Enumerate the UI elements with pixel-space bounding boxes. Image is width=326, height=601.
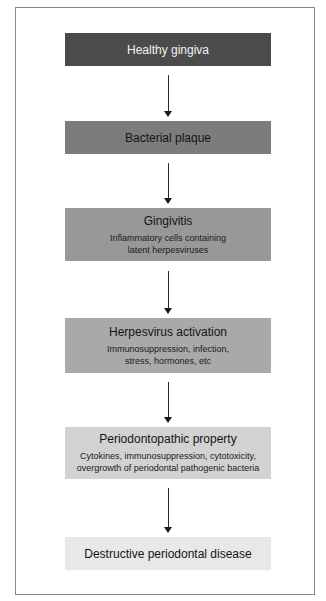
arrow-down-icon: [164, 163, 173, 204]
arrow-down-icon: [164, 75, 173, 117]
node-description: Immunosuppression, infection, stress, ho…: [107, 343, 229, 367]
arrow-down-icon: [164, 488, 173, 533]
node-description-line: stress, hormones, etc: [107, 355, 229, 367]
node-title: Destructive periodontal disease: [84, 547, 251, 561]
node-destructive-periodontal-disease: Destructive periodontal disease: [65, 537, 271, 570]
node-gingivitis: Gingivitis Inflammatory cells containing…: [65, 208, 271, 261]
node-description-line: overgrowth of periodontal pathogenic bac…: [77, 462, 260, 474]
node-title: Herpesvirus activation: [109, 325, 227, 339]
node-description-line: latent herpesviruses: [110, 244, 226, 256]
arrow-down-icon: [164, 271, 173, 314]
node-healthy-gingiva: Healthy gingiva: [65, 33, 271, 66]
node-description: Cytokines, immunosuppression, cytotoxici…: [77, 450, 260, 474]
node-description-line: Immunosuppression, infection,: [107, 343, 229, 355]
node-bacterial-plaque: Bacterial plaque: [65, 121, 271, 154]
arrow-down-icon: [164, 382, 173, 423]
node-title: Gingivitis: [144, 214, 193, 228]
node-title: Bacterial plaque: [125, 131, 211, 145]
node-description-line: Inflammatory cells containing: [110, 232, 226, 244]
node-title: Healthy gingiva: [127, 43, 209, 57]
node-description-line: Cytokines, immunosuppression, cytotoxici…: [77, 450, 260, 462]
node-herpesvirus-activation: Herpesvirus activation Immunosuppression…: [65, 318, 271, 373]
node-description: Inflammatory cells containing latent her…: [110, 232, 226, 256]
node-title: Periodontopathic property: [99, 432, 236, 446]
node-periodontopathic-property: Periodontopathic property Cytokines, imm…: [65, 427, 271, 479]
